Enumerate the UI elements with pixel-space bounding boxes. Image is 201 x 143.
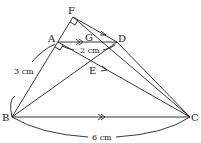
label-A: A	[47, 33, 56, 44]
label-B: B	[2, 112, 9, 123]
label-F: F	[68, 5, 75, 16]
measure-BC: 6 cm	[92, 133, 112, 142]
label-G: G	[85, 32, 93, 43]
label-D: D	[118, 33, 126, 44]
segment-AC	[58, 42, 190, 117]
arc-6cm-left	[12, 117, 88, 137]
label-E: E	[89, 65, 96, 76]
segment-BD	[12, 42, 117, 117]
measure-AB: 3 cm	[14, 67, 34, 76]
segment-FD	[73, 17, 117, 42]
measure-AD: 2 cm	[80, 46, 100, 55]
label-C: C	[191, 112, 199, 123]
geometry-diagram: F A G D E B C 3 cm 2 cm 6 cm	[0, 0, 201, 143]
arc-6cm-right	[116, 117, 190, 137]
right-angle-A	[55, 45, 63, 50]
segment-DC	[117, 42, 190, 117]
